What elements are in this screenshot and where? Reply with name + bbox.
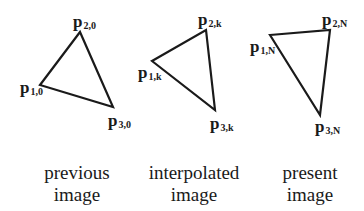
caption-line-1: interpolated	[139, 162, 249, 184]
caption-previous-image: previous image	[22, 162, 132, 206]
vertex-label-p2-k: p2,k	[198, 11, 222, 28]
caption-line-1: present	[255, 162, 364, 184]
vertex-label-p1-k: p1,k	[138, 64, 162, 81]
vertex-label-p3-N: p3,N	[315, 118, 340, 135]
vertex-label-p2-0: p2,0	[73, 13, 96, 30]
triangle-previous	[40, 32, 113, 107]
vertex-label-p2-N: p2,N	[322, 11, 347, 28]
vertex-label-p3-0: p3,0	[108, 112, 131, 129]
caption-interpolated-image: interpolated image	[139, 162, 249, 206]
triangle-present	[270, 30, 330, 115]
caption-line-2: image	[139, 184, 249, 206]
caption-line-2: image	[22, 184, 132, 206]
caption-line-2: image	[255, 184, 364, 206]
vertex-label-p3-k: p3,k	[210, 115, 234, 132]
caption-present-image: present image	[255, 162, 364, 206]
vertex-label-p1-0: p1,0	[20, 79, 43, 96]
vertex-label-p1-N: p1,N	[250, 38, 275, 55]
caption-line-1: previous	[22, 162, 132, 184]
